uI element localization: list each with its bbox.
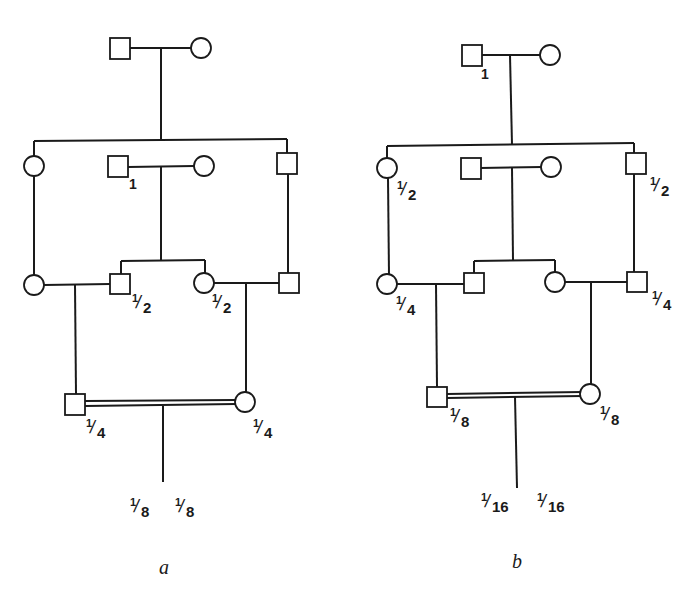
male-square	[627, 272, 647, 292]
female-circle	[541, 157, 561, 177]
pedigree-panel-a	[0, 0, 690, 591]
denominator: 2	[143, 300, 151, 315]
descent-line	[436, 284, 437, 387]
male-square	[626, 153, 646, 174]
male-square	[277, 153, 297, 174]
male-square	[279, 273, 299, 293]
coefficient-label-ancestor: 1	[129, 176, 137, 192]
denominator: 4	[97, 425, 105, 440]
male-square	[110, 38, 130, 59]
female-circle	[540, 45, 560, 65]
denominator: 8	[611, 412, 619, 427]
denominator: 4	[407, 302, 415, 317]
panel-caption-a: a	[159, 556, 169, 579]
male-square	[427, 387, 447, 407]
female-circle	[191, 38, 211, 58]
male-square	[461, 158, 481, 179]
consanguineous-marriage-line	[85, 404, 236, 406]
denominator: 2	[408, 187, 416, 202]
denominator: 2	[223, 300, 231, 315]
marriage-line	[44, 284, 110, 285]
denominator: 16	[548, 499, 565, 514]
male-square	[464, 273, 484, 293]
marriage-line	[480, 167, 542, 168]
denominator: 8	[186, 504, 194, 519]
female-circle	[235, 392, 255, 412]
denominator: 8	[461, 414, 469, 429]
descent-line	[388, 178, 389, 275]
female-circle	[24, 156, 44, 176]
female-circle	[545, 272, 565, 292]
denominator: 16	[492, 499, 509, 514]
female-circle	[194, 273, 214, 293]
sibship-line	[474, 260, 555, 261]
denominator: 8	[141, 504, 149, 519]
denominator: 2	[661, 183, 669, 198]
sibship-line	[121, 260, 205, 261]
female-circle	[194, 156, 214, 176]
descent-line	[510, 55, 512, 145]
female-circle	[24, 275, 44, 295]
female-circle	[580, 384, 600, 404]
male-square-ancestor	[462, 45, 482, 66]
male-square-ancestor	[108, 156, 128, 177]
descent-line	[75, 285, 76, 394]
offspring-line	[515, 397, 517, 488]
sibship-line	[34, 139, 287, 141]
consanguineous-marriage-line	[447, 392, 583, 394]
consanguineous-marriage-line	[85, 400, 236, 401]
male-square	[110, 274, 130, 294]
female-circle	[377, 158, 397, 178]
denominator: 4	[663, 297, 671, 312]
male-square	[65, 394, 85, 415]
denominator: 4	[264, 425, 272, 440]
female-circle	[377, 274, 397, 294]
sibship-line	[387, 143, 634, 146]
coefficient-label-ancestor: 1	[481, 66, 489, 82]
descent-line	[512, 168, 513, 260]
marriage-line	[128, 166, 194, 167]
panel-caption-b: b	[512, 550, 522, 573]
